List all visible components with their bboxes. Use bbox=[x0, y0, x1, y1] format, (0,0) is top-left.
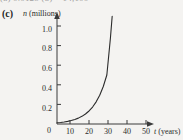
exponential-curve bbox=[57, 16, 112, 123]
plot-area bbox=[0, 0, 183, 140]
y-axis-arrowhead bbox=[54, 12, 60, 19]
figure-panel: (a) 0.0125 (b) ≈ 14,100 (c) n (millions)… bbox=[0, 0, 183, 140]
x-axis-arrowhead bbox=[147, 121, 154, 127]
